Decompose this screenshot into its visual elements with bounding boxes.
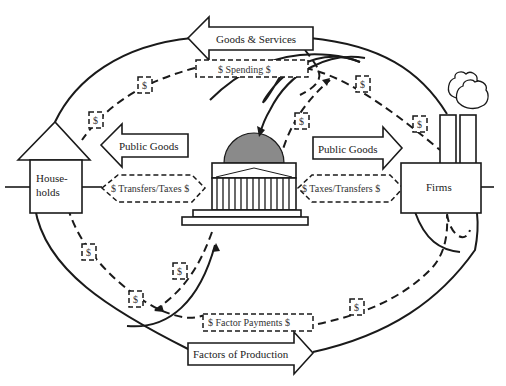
transfers-taxes-label: $ Transfers/Taxes $ [111, 183, 189, 194]
svg-text:$: $ [133, 294, 138, 305]
dollar-token: $ [138, 77, 152, 93]
factor-payments-box: $ Factor Payments $ [203, 314, 313, 331]
dollar-token: $ [295, 113, 309, 129]
public-goods-left-arrow: Public Goods [101, 124, 188, 167]
svg-text:$: $ [360, 79, 365, 90]
taxes-transfers-label: $ Taxes/Transfers $ [302, 183, 380, 194]
households-node: House- holds [5, 122, 102, 213]
svg-text:$: $ [142, 80, 147, 91]
dollar-token: $ [413, 116, 427, 132]
factors-production-arrow: Factors of Production [188, 332, 313, 374]
dollar-token: $ [82, 244, 96, 260]
dollar-token: $ [356, 76, 370, 92]
svg-text:$: $ [177, 266, 182, 277]
goods-services-label: Goods & Services [216, 33, 296, 45]
factors-flow-arc-right [313, 213, 478, 352]
firms-dash-down [447, 214, 470, 237]
svg-text:$: $ [86, 247, 91, 258]
taxes-transfers-box: $ Taxes/Transfers $ [298, 175, 403, 202]
svg-text:$: $ [354, 302, 359, 313]
firms-label: Firms [426, 181, 452, 193]
public-goods-right-arrow: Public Goods [313, 127, 402, 169]
transfers-taxes-box: $ Transfers/Taxes $ [102, 175, 205, 202]
firms-node: Firms [401, 72, 494, 213]
households-label-1: House- [36, 172, 68, 184]
svg-text:$: $ [417, 119, 422, 130]
public-goods-left-label: Public Goods [119, 140, 179, 152]
spending-label: $ Spending $ [218, 64, 271, 75]
arrowhead-icon [212, 243, 220, 252]
svg-text:$: $ [299, 116, 304, 127]
dome-icon [224, 133, 284, 163]
dollar-token: $ [350, 299, 364, 315]
dollar-token: $ [173, 263, 187, 279]
factor-pay-dash-right [318, 215, 447, 324]
dollar-token: $ [129, 291, 143, 307]
factor-payments-label: $ Factor Payments $ [208, 317, 290, 328]
goods-services-arrow: Goods & Services [188, 17, 313, 60]
spending-box: $ Spending $ [196, 60, 308, 77]
factors-production-label: Factors of Production [193, 348, 289, 360]
factors-flow-arc-left [35, 208, 190, 350]
svg-text:$: $ [93, 115, 98, 126]
circular-flow-diagram: Goods & Services $ Spending $ House- hol… [0, 0, 506, 386]
dollar-token: $ [89, 112, 103, 128]
households-label-2: holds [36, 186, 60, 198]
goods-flow-arc-left [55, 38, 192, 122]
public-goods-right-label: Public Goods [318, 143, 378, 155]
government-building [182, 133, 308, 225]
